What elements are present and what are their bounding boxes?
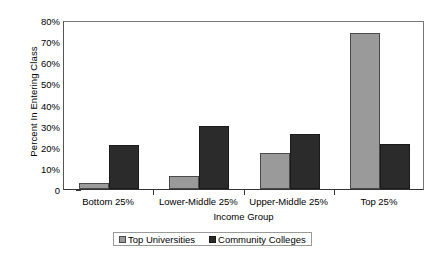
bar xyxy=(380,144,410,189)
bar-group xyxy=(79,22,139,189)
bar-group xyxy=(260,22,320,189)
x-axis-tick-label: Upper-Middle 25% xyxy=(249,196,328,207)
y-axis-tick-label: 70% xyxy=(20,37,60,48)
chart-legend: Top UniversitiesCommunity Colleges xyxy=(113,232,312,246)
legend-entry: Top Universities xyxy=(119,234,195,245)
x-axis-tick-label: Top 25% xyxy=(360,196,397,207)
y-axis-tick-label: 80% xyxy=(20,16,60,27)
y-axis-tick-label: 60% xyxy=(20,58,60,69)
x-axis-title: Income Group xyxy=(63,211,424,222)
x-axis-tick-mark xyxy=(334,190,335,195)
legend-entry: Community Colleges xyxy=(209,234,306,245)
bar xyxy=(199,126,229,189)
y-axis-tick-label: 10% xyxy=(20,163,60,174)
x-axis-tick-mark xyxy=(244,190,245,195)
bars-layer xyxy=(64,22,423,189)
bar xyxy=(79,183,109,189)
x-axis-tick-mark xyxy=(153,190,154,195)
legend-swatch-icon xyxy=(209,236,216,243)
bar xyxy=(350,33,380,189)
x-axis-tick-label: Bottom 25% xyxy=(82,196,134,207)
bar xyxy=(260,153,290,189)
bar xyxy=(169,176,199,189)
bar xyxy=(290,134,320,189)
y-axis-tick-label: 0 xyxy=(20,185,60,196)
legend-swatch-icon xyxy=(119,236,126,243)
bar-group xyxy=(169,22,229,189)
legend-label: Community Colleges xyxy=(218,234,306,245)
y-axis-tick-label: 40% xyxy=(20,100,60,111)
y-axis-tick-label: 20% xyxy=(20,142,60,153)
bar-group xyxy=(350,22,410,189)
bar xyxy=(109,145,139,189)
y-axis-tick-label: 30% xyxy=(20,121,60,132)
x-axis-tick-label: Lower-Middle 25% xyxy=(159,196,238,207)
plot-area xyxy=(63,21,424,190)
y-axis-tick-mark xyxy=(76,190,81,191)
y-axis-tick-label: 50% xyxy=(20,79,60,90)
bar-chart: Percent In Entering Class 010%20%30%40%5… xyxy=(0,0,436,261)
y-axis-tick-labels: 010%20%30%40%50%60%70%80% xyxy=(18,0,60,261)
legend-label: Top Universities xyxy=(128,234,195,245)
